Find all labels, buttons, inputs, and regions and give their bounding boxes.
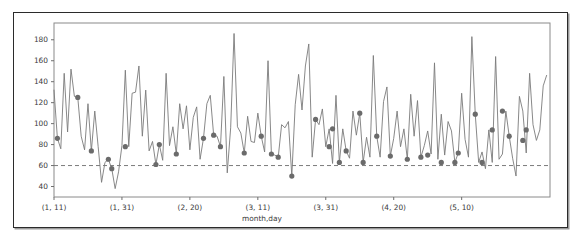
data-point-marker — [174, 151, 179, 156]
data-point-marker — [456, 150, 461, 155]
y-tick-label: 160 — [34, 56, 48, 65]
x-tick-label: (3, 11) — [246, 203, 271, 212]
data-point-marker — [425, 152, 430, 157]
data-point-marker — [201, 136, 206, 141]
data-point-marker — [109, 166, 114, 171]
data-point-marker — [289, 173, 294, 178]
x-tick-label: (1, 31) — [110, 203, 135, 212]
x-axis-title: month,day — [242, 214, 283, 223]
data-point-marker — [344, 148, 349, 153]
y-tick-label: 180 — [34, 35, 48, 44]
data-point-marker — [439, 160, 444, 165]
data-point-marker — [452, 160, 457, 165]
x-tick-label: (1, 11) — [42, 203, 67, 212]
data-point-marker — [218, 144, 223, 149]
data-point-marker — [276, 155, 281, 160]
plot-area: 406080100120140160180(1, 11)(1, 31)(2, 2… — [14, 13, 567, 227]
x-tick-label: (3, 31) — [313, 203, 338, 212]
data-point-marker — [490, 127, 495, 132]
x-tick-label: (4, 20) — [381, 203, 406, 212]
data-point-marker — [337, 160, 342, 165]
data-point-marker — [157, 142, 162, 147]
y-tick-label: 100 — [34, 119, 48, 128]
data-point-marker — [106, 157, 111, 162]
data-point-marker — [313, 117, 318, 122]
data-point-marker — [330, 126, 335, 131]
figure-panel: 406080100120140160180(1, 11)(1, 31)(2, 2… — [13, 12, 568, 228]
y-tick-label: 140 — [34, 77, 48, 86]
data-point-marker — [473, 112, 478, 117]
y-tick-label: 60 — [39, 161, 49, 170]
data-point-marker — [479, 160, 484, 165]
y-tick-label: 40 — [39, 182, 49, 191]
data-point-marker — [361, 160, 366, 165]
data-point-marker — [520, 138, 525, 143]
data-point-marker — [327, 144, 332, 149]
y-tick-label: 80 — [39, 140, 49, 149]
data-point-marker — [123, 144, 128, 149]
data-point-marker — [405, 157, 410, 162]
data-point-marker — [357, 111, 362, 116]
x-tick-label: (2, 20) — [178, 203, 203, 212]
data-point-marker — [55, 136, 60, 141]
y-tick-label: 120 — [34, 98, 48, 107]
data-point-marker — [388, 154, 393, 159]
data-point-marker — [75, 95, 80, 100]
data-point-marker — [242, 150, 247, 155]
data-point-marker — [153, 162, 158, 167]
data-point-marker — [374, 134, 379, 139]
data-point-marker — [418, 155, 423, 160]
data-point-marker — [524, 127, 529, 132]
data-point-marker — [89, 148, 94, 153]
data-point-marker — [500, 108, 505, 113]
x-tick-label: (5, 10) — [449, 203, 474, 212]
line-chart: 406080100120140160180(1, 11)(1, 31)(2, 2… — [14, 13, 569, 229]
data-point-marker — [259, 134, 264, 139]
data-point-marker — [211, 133, 216, 138]
data-point-marker — [269, 151, 274, 156]
data-point-marker — [507, 134, 512, 139]
